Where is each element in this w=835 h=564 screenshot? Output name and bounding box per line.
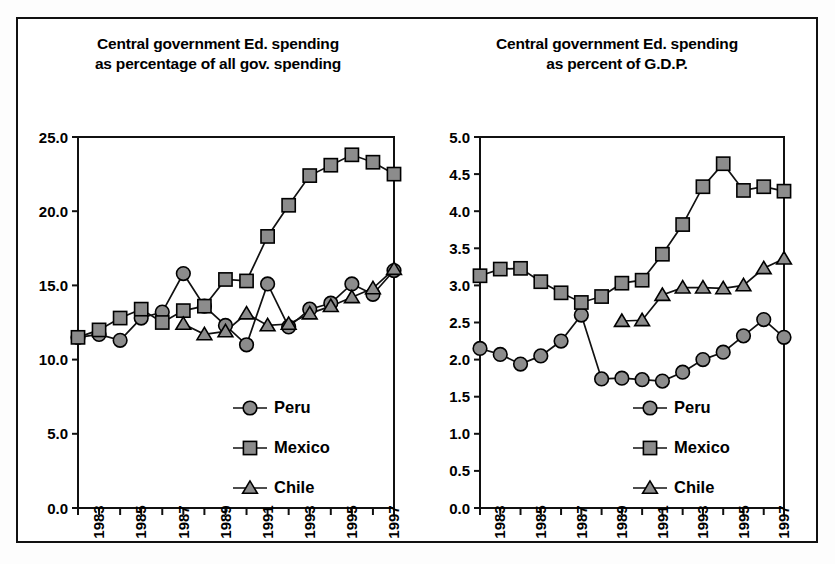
legend-square-marker [643, 441, 656, 454]
data-point-peru [473, 342, 487, 356]
x-axis-tick-label: 1995 [343, 505, 360, 538]
x-axis-tick-label: 1983 [90, 505, 107, 538]
chart-title-left-line1: Central government Ed. spending [18, 34, 418, 54]
chart-title-left: Central government Ed. spending as perce… [18, 34, 418, 75]
data-point-mexico [261, 230, 274, 243]
legend-label: Mexico [274, 438, 330, 456]
data-point-mexico [303, 169, 316, 182]
x-axis-tick-label: 1997 [775, 505, 792, 538]
x-axis-tick-label: 1995 [735, 505, 752, 538]
data-point-peru [635, 373, 649, 387]
data-point-peru [737, 329, 751, 343]
x-axis-tick-label: 1983 [491, 505, 508, 538]
data-point-mexico [219, 273, 232, 286]
y-axis-tick-label: 5.0 [47, 425, 68, 442]
y-axis-tick-label: 25.0 [39, 129, 68, 146]
x-axis-tick-label: 1997 [385, 505, 402, 538]
data-point-chile [756, 261, 771, 273]
data-point-mexico [757, 180, 770, 193]
x-axis-tick-label: 1985 [132, 505, 149, 538]
data-point-mexico [615, 277, 628, 290]
data-point-mexico [656, 248, 669, 261]
y-axis-tick-label: 3.0 [449, 277, 470, 294]
x-axis-tick-label: 1993 [301, 505, 318, 538]
y-axis-tick-label: 4.0 [449, 203, 470, 220]
y-axis-tick-label: 0.5 [449, 462, 470, 479]
data-point-mexico [177, 304, 190, 317]
data-point-mexico [514, 262, 527, 275]
data-point-chile [655, 288, 670, 300]
legend-label: Peru [274, 398, 311, 416]
data-point-chile [344, 290, 359, 302]
plot-area-right: 0.00.51.01.52.02.53.03.54.04.55.01983198… [418, 81, 816, 541]
y-axis-tick-label: 2.5 [449, 314, 470, 331]
legend-circle-marker [643, 401, 657, 415]
data-point-peru [554, 334, 568, 348]
data-point-mexico [717, 157, 730, 170]
y-axis-tick-label: 0.0 [449, 500, 470, 517]
x-axis-tick-label: 1985 [532, 505, 549, 538]
series-line-mexico [78, 155, 394, 338]
x-axis-tick-label: 1987 [573, 505, 590, 538]
data-point-peru [716, 345, 730, 359]
x-axis-tick-label: 1991 [259, 505, 276, 538]
data-point-mexico [156, 316, 169, 329]
data-point-mexico [135, 303, 148, 316]
data-point-mexico [696, 180, 709, 193]
data-point-peru [676, 365, 690, 379]
data-point-peru [595, 372, 609, 386]
data-point-mexico [324, 159, 337, 172]
data-point-mexico [282, 199, 295, 212]
series-line-peru [480, 315, 784, 381]
data-point-mexico [595, 290, 608, 303]
y-axis-tick-label: 5.0 [449, 129, 470, 146]
legend-square-marker [243, 441, 256, 454]
data-point-mexico [676, 218, 689, 231]
legend-circle-marker [243, 401, 257, 415]
x-axis-tick-label: 1991 [654, 505, 671, 538]
data-point-peru [177, 267, 191, 281]
x-axis-tick-label: 1989 [613, 505, 630, 538]
data-point-peru [261, 277, 275, 291]
data-point-mexico [554, 286, 567, 299]
y-axis-tick-label: 10.0 [39, 351, 68, 368]
data-point-mexico [473, 269, 486, 282]
data-point-mexico [636, 274, 649, 287]
data-point-chile [239, 307, 254, 319]
figure-frame: Central government Ed. spending as perce… [16, 17, 818, 543]
data-point-mexico [71, 331, 84, 344]
data-point-peru [656, 374, 670, 388]
plot-area-left: 0.05.010.015.020.025.0198319851987198919… [18, 81, 418, 541]
y-axis-tick-label: 3.5 [449, 240, 470, 257]
x-axis-tick-label: 1989 [217, 505, 234, 538]
chart-svg-right: 0.00.51.01.52.02.53.03.54.04.55.01983198… [418, 81, 816, 541]
chart-title-right-line1: Central government Ed. spending [418, 34, 816, 54]
y-axis-tick-label: 4.5 [449, 166, 470, 183]
data-point-peru [113, 333, 127, 347]
legend-label: Chile [674, 478, 714, 496]
legend-label: Peru [674, 398, 711, 416]
x-axis-tick-label: 1993 [694, 505, 711, 538]
chart-title-right-line2: as percent of G.D.P. [418, 54, 816, 74]
data-point-peru [575, 308, 589, 322]
data-point-mexico [575, 296, 588, 309]
data-point-mexico [387, 168, 400, 181]
data-point-mexico [345, 148, 358, 161]
y-axis-tick-label: 15.0 [39, 277, 68, 294]
chart-svg-left: 0.05.010.015.020.025.0198319851987198919… [18, 81, 418, 541]
data-point-peru [493, 348, 507, 362]
data-point-mexico [534, 275, 547, 288]
data-point-peru [534, 349, 548, 363]
y-axis-tick-label: 1.5 [449, 388, 470, 405]
y-axis-tick-label: 1.0 [449, 425, 470, 442]
data-point-peru [696, 353, 710, 367]
data-point-peru [615, 371, 629, 385]
chart-panel-left: Central government Ed. spending as perce… [18, 19, 418, 541]
data-point-peru [777, 331, 791, 345]
data-point-peru [240, 338, 254, 352]
x-axis-tick-label: 1987 [175, 505, 192, 538]
data-point-mexico [240, 274, 253, 287]
data-point-chile [675, 281, 690, 293]
data-point-peru [514, 357, 528, 371]
data-point-mexico [114, 311, 127, 324]
